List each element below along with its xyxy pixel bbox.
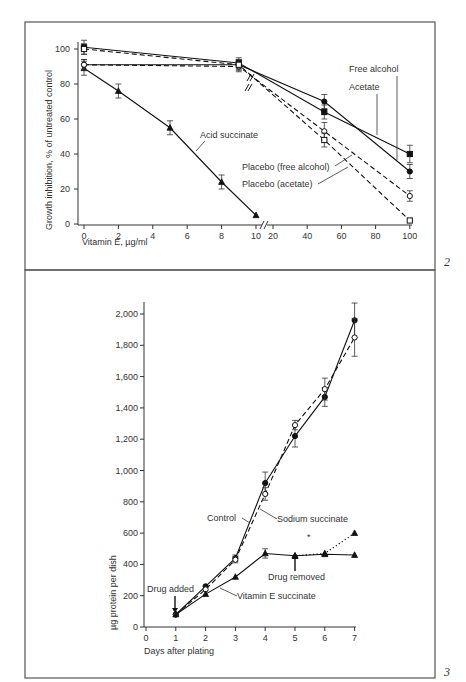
x-tick-label: 0 — [143, 633, 148, 643]
x-tick-label: 6 — [322, 633, 327, 643]
panel-3-number: 3 — [443, 665, 450, 679]
data-point — [322, 137, 327, 142]
series-free-alcohol — [81, 60, 413, 179]
data-point — [407, 151, 412, 156]
y-tick-label: 1,800 — [115, 340, 138, 350]
data-point — [292, 423, 297, 428]
data-point — [236, 62, 241, 67]
y-tick-label: 1,000 — [115, 466, 138, 476]
label-sodium-succinate: Sodium succinate — [277, 514, 348, 524]
leader-line — [260, 509, 277, 519]
label-drug-removed: Drug removed — [268, 572, 325, 582]
series-vitamin-e-succinate-drug-removed — [292, 530, 358, 558]
series-sodium-succinate — [173, 319, 357, 617]
x-axis-label: Days after plating — [144, 646, 214, 656]
x-axis-label: Vitamin E, µg/ml — [82, 237, 148, 247]
x-tick-label: 10 — [251, 231, 261, 241]
data-point — [322, 109, 327, 114]
data-point — [407, 169, 412, 174]
x-tick-label: 7 — [352, 633, 357, 643]
x-tick-label: 8 — [219, 231, 224, 241]
series-line — [176, 320, 355, 614]
label-acetate: Acetate — [349, 82, 380, 92]
x-tick-label: 80 — [371, 231, 381, 241]
panel-3-annotations: Drug addedDrug removedControlSodium succ… — [147, 509, 348, 613]
series-line — [84, 68, 256, 215]
data-point — [263, 480, 268, 485]
x-tick-label: 20 — [268, 231, 278, 241]
y-tick-label: 40 — [60, 149, 70, 159]
leader-line — [196, 141, 205, 151]
asterisk-mark: * — [307, 532, 311, 542]
series-line — [176, 553, 355, 614]
y-tick-label: 0 — [65, 219, 70, 229]
y-tick-label: 200 — [123, 591, 138, 601]
series-acetate — [81, 40, 413, 163]
series-control — [173, 303, 357, 617]
x-tick-label: 5 — [292, 633, 297, 643]
data-point — [352, 335, 357, 340]
x-tick-label: 1 — [173, 633, 178, 643]
y-tick-label: 2,000 — [115, 309, 138, 319]
label-drug-added: Drug added — [147, 584, 194, 594]
x-tick-label: 4 — [150, 231, 155, 241]
y-tick-label: 1,400 — [115, 403, 138, 413]
y-tick-label: 60 — [60, 114, 70, 124]
label-vitamin-e-succinate: Vitamin E succinate — [237, 591, 316, 601]
y-axis-label: µg protein per dish — [108, 555, 118, 630]
y-tick-label: 400 — [123, 559, 138, 569]
data-point — [262, 550, 268, 556]
x-tick-label: 2 — [203, 633, 208, 643]
x-tick-label: 3 — [233, 633, 238, 643]
leader-line — [220, 588, 237, 596]
y-tick-label: 100 — [55, 44, 70, 54]
label-placebo-free-alcohol: Placebo (free alcohol) — [242, 162, 330, 172]
panel-3-chart: 02004006008001,0001,2001,4001,6001,8002,… — [108, 302, 358, 656]
panel-2-annotations: Acid succinateFree alcoholAcetatePlacebo… — [196, 64, 399, 189]
y-tick-label: 600 — [123, 528, 138, 538]
panel-3-frame — [25, 270, 435, 678]
data-point — [167, 125, 173, 131]
data-point — [322, 99, 327, 104]
series-vitamin-e-succinate — [173, 549, 358, 617]
data-point — [407, 218, 412, 223]
x-tick-label: 100 — [402, 231, 417, 241]
data-point — [115, 88, 121, 94]
y-tick-label: 0 — [133, 622, 138, 632]
panel-2-number: 2 — [444, 255, 450, 269]
label-acid-succinate: Acid succinate — [200, 130, 258, 140]
y-axis-label: Growth inhibition, % of untreated contro… — [44, 70, 54, 230]
y-tick-label: 1,600 — [115, 372, 138, 382]
x-tick-label: 6 — [185, 231, 190, 241]
y-tick-label: 20 — [60, 184, 70, 194]
x-tick-label: 4 — [263, 633, 268, 643]
data-point — [292, 433, 297, 438]
data-point — [322, 550, 328, 556]
x-tick-label: 40 — [302, 231, 312, 241]
panel-3-axes: 02004006008001,0001,2001,4001,6001,8002,… — [108, 302, 357, 656]
data-point — [352, 530, 358, 536]
y-tick-label: 80 — [60, 79, 70, 89]
y-tick-label: 1,200 — [115, 434, 138, 444]
label-free-alcohol: Free alcohol — [349, 64, 399, 74]
data-point — [81, 62, 86, 67]
data-point — [81, 46, 86, 51]
label-control: Control — [207, 513, 236, 523]
data-point — [232, 574, 238, 580]
figure: 2 3 020406080100024681020406080100Vitami… — [0, 0, 466, 682]
label-placebo-acetate: Placebo (acetate) — [242, 179, 313, 189]
leader-line — [242, 518, 250, 523]
data-point — [322, 387, 327, 392]
panel-3-series — [173, 303, 358, 617]
y-tick-label: 800 — [123, 497, 138, 507]
data-point — [263, 491, 268, 496]
panel-2-chart: 020406080100024681020406080100Vitamin E,… — [44, 40, 417, 247]
data-point — [233, 557, 238, 562]
data-point — [407, 193, 412, 198]
x-tick-label: 60 — [336, 231, 346, 241]
